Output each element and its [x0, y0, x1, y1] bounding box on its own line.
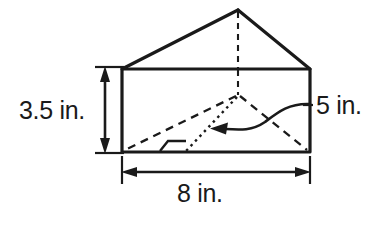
depth-dimension-label: 5 in.	[316, 93, 362, 118]
triangle-left-edge	[122, 10, 238, 69]
height-dimension-label: 3.5 in.	[19, 98, 85, 123]
right-angle-marker	[160, 141, 186, 151]
width-dimension-label: 8 in.	[177, 181, 223, 206]
altitude-dotted-line	[186, 97, 237, 151]
width-arrowhead-left	[121, 167, 137, 177]
width-arrowhead-right	[295, 167, 311, 177]
callout-arrowhead	[210, 123, 228, 135]
height-arrowhead-top	[100, 66, 110, 82]
height-arrowhead-bottom	[100, 138, 110, 154]
geometry-figure: 3.5 in. 5 in. 8 in.	[0, 0, 384, 227]
triangle-right-edge	[238, 10, 310, 69]
